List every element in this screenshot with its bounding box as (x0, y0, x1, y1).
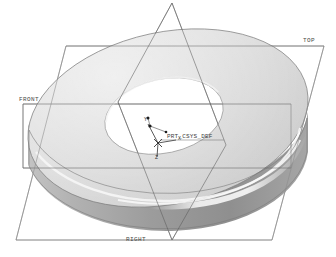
datum-label-front: FRONT (19, 96, 39, 103)
cad-3d-scene (0, 0, 336, 257)
top-annular-face (0, 0, 336, 257)
csys-node-a (148, 124, 151, 127)
datum-label-top: TOP (303, 37, 315, 44)
csys-z-label: Z (155, 155, 158, 161)
datum-label-right: RIGHT (126, 236, 146, 243)
cad-viewport[interactable]: TOP FRONT RIGHT PRT_CSYS_DEF X Y Z (0, 0, 336, 257)
csys-x-label: X (178, 136, 181, 142)
torus-solid[interactable] (0, 0, 336, 257)
csys-label: PRT_CSYS_DEF (167, 133, 213, 140)
csys-y-label: Y (144, 117, 147, 123)
